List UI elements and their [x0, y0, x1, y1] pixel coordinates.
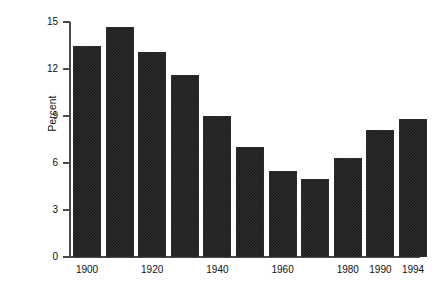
bar: [399, 119, 427, 257]
x-tick-label: 1940: [187, 264, 247, 275]
x-tick-label: 1920: [122, 264, 182, 275]
x-tick-label: 1960: [253, 264, 313, 275]
bar: [334, 158, 362, 257]
y-tick-label: 0: [0, 252, 58, 262]
y-tick-label: 15: [0, 17, 58, 27]
bar: [301, 179, 329, 257]
bar: [269, 171, 297, 257]
y-tick-label: 9: [0, 111, 58, 121]
bar-chart-figure: Percent 03691215 19001920194019601980199…: [0, 0, 435, 287]
bar: [106, 27, 134, 257]
y-tick-label: 6: [0, 158, 58, 168]
bars-layer: [69, 22, 420, 257]
bar: [138, 52, 166, 257]
y-tick-label: 12: [0, 64, 58, 74]
y-tick-label: 3: [0, 205, 58, 215]
bar: [236, 147, 264, 257]
x-tick-label: 1900: [57, 264, 117, 275]
bar: [366, 130, 394, 257]
x-tick-label: 1994: [383, 264, 435, 275]
plot-area: [69, 22, 420, 257]
bar: [171, 75, 199, 257]
bar: [203, 116, 231, 257]
bar: [73, 46, 101, 258]
